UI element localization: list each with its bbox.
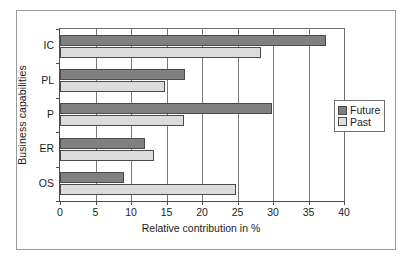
- legend-label: Future: [350, 105, 380, 116]
- plot-area: 0510152025303540ICPLPEROS: [59, 28, 345, 202]
- x-tick-mark: [202, 201, 203, 205]
- x-tick-mark: [167, 201, 168, 205]
- x-tick-label: 30: [267, 206, 279, 218]
- legend-label: Past: [350, 117, 371, 128]
- x-tick-label: 40: [338, 206, 350, 218]
- bar-IC-future: [60, 35, 326, 46]
- x-tick-mark: [344, 201, 345, 205]
- y-tick-label-OS: OS: [18, 177, 54, 189]
- x-tick-mark: [96, 201, 97, 205]
- x-tick-mark: [131, 201, 132, 205]
- y-tick-label-PL: PL: [18, 74, 54, 86]
- x-tick-label: 10: [125, 206, 137, 218]
- y-tick-mark: [56, 29, 60, 30]
- x-tick-mark: [273, 201, 274, 205]
- category-row: [60, 167, 344, 201]
- x-axis-title: Relative contribution in %: [142, 222, 260, 234]
- category-row: [60, 63, 344, 97]
- x-tick-label: 20: [196, 206, 208, 218]
- legend-swatch-icon: [338, 106, 347, 115]
- y-tick-label-P: P: [18, 108, 54, 120]
- legend-item-future: Future: [338, 105, 380, 116]
- bar-ER-past: [60, 150, 154, 161]
- bar-OS-future: [60, 172, 124, 183]
- x-tick-mark: [60, 201, 61, 205]
- y-tick-label-IC: IC: [18, 39, 54, 51]
- category-row: [60, 132, 344, 166]
- x-tick-label: 5: [93, 206, 99, 218]
- legend-item-past: Past: [338, 117, 380, 128]
- bar-PL-future: [60, 69, 185, 80]
- bar-OS-past: [60, 184, 236, 195]
- legend-swatch-icon: [338, 117, 347, 126]
- x-tick-label: 15: [161, 206, 173, 218]
- chart-figure: Business capabilities 0510152025303540IC…: [0, 0, 412, 263]
- bar-IC-past: [60, 47, 261, 58]
- x-tick-mark: [309, 201, 310, 205]
- bar-ER-future: [60, 138, 145, 149]
- bar-P-past: [60, 115, 184, 126]
- x-tick-label: 35: [303, 206, 315, 218]
- y-tick-mark: [56, 201, 60, 202]
- legend: FuturePast: [334, 100, 385, 132]
- category-row: [60, 29, 344, 63]
- y-tick-label-ER: ER: [18, 142, 54, 154]
- x-tick-label: 0: [57, 206, 63, 218]
- bar-PL-past: [60, 81, 165, 92]
- x-tick-mark: [238, 201, 239, 205]
- category-row: [60, 98, 344, 132]
- bar-P-future: [60, 103, 272, 114]
- x-tick-label: 25: [232, 206, 244, 218]
